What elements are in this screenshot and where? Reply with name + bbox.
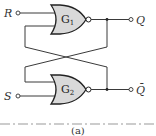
- wire-g1-input2: [25, 26, 55, 47]
- g2-output-bubble: [86, 87, 91, 92]
- junction-qbar: [106, 88, 109, 91]
- sr-latch-diagram: R G1 Q S G2 Q̄ (a): [0, 0, 156, 136]
- g1-output-bubble: [86, 17, 91, 22]
- output-terminal-qbar: [129, 88, 133, 92]
- output-terminal-q: [129, 18, 133, 22]
- input-terminal-s: [16, 94, 20, 98]
- label-r: R: [3, 7, 12, 20]
- input-terminal-r: [16, 11, 20, 15]
- label-q: Q: [136, 14, 145, 27]
- label-s: S: [4, 90, 12, 103]
- label-qbar: Q̄: [136, 83, 145, 96]
- caption: (a): [71, 125, 85, 136]
